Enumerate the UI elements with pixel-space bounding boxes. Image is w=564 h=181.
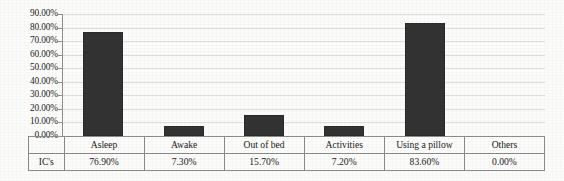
table-row-values: IC's 76.90%7.30%15.70%7.20%83.60%0.00%: [29, 154, 545, 171]
bar-asleep: [83, 32, 123, 136]
y-axis-tick-mark: [57, 41, 62, 42]
y-axis-tick-label: 80.00%: [2, 23, 58, 32]
gridline: [63, 68, 545, 69]
gridline: [63, 122, 545, 123]
table-value-cell: 0.00%: [464, 154, 544, 171]
gridline: [63, 82, 545, 83]
table-value-cell: 83.60%: [384, 154, 464, 171]
y-axis-tick-label: 70.00%: [2, 36, 58, 45]
gridline: [63, 109, 545, 110]
table-category-cell: Awake: [144, 137, 224, 154]
y-axis-tick-label: 90.00%: [2, 9, 58, 18]
gridline: [63, 28, 545, 29]
y-axis-tick-mark: [57, 136, 62, 137]
y-axis-tick-mark: [57, 14, 62, 15]
y-axis-tick-mark: [57, 122, 62, 123]
y-axis-tick-mark: [57, 82, 62, 83]
table-category-cell: Out of bed: [224, 137, 304, 154]
y-axis-tick-label: 50.00%: [2, 63, 58, 72]
y-axis-tick-mark: [57, 95, 62, 96]
y-axis-tick-mark: [57, 109, 62, 110]
table-row-label: IC's: [29, 154, 65, 171]
table-value-cell: 7.30%: [144, 154, 224, 171]
table-row-categories: AsleepAwakeOut of bedActivitiesUsing a p…: [29, 137, 545, 154]
bar-chart-figure: 0.00%10.00%20.00%30.00%40.00%50.00%60.00…: [0, 0, 564, 181]
y-axis-tick-label: 60.00%: [2, 50, 58, 59]
table-category-cell: Others: [464, 137, 544, 154]
y-axis-tick-mark: [57, 55, 62, 56]
table-value-cell: 15.70%: [224, 154, 304, 171]
bar-using-a-pillow: [405, 23, 445, 136]
gridline: [63, 55, 545, 56]
table-category-cell: Activities: [304, 137, 384, 154]
table-category-cell: Asleep: [64, 137, 144, 154]
table-corner-blank: [29, 137, 65, 154]
table-value-cell: 76.90%: [64, 154, 144, 171]
table-value-cell: 7.20%: [304, 154, 384, 171]
table-category-cell: Using a pillow: [384, 137, 464, 154]
gridline: [63, 14, 545, 15]
data-table: AsleepAwakeOut of bedActivitiesUsing a p…: [28, 136, 545, 171]
gridline: [63, 41, 545, 42]
y-axis-tick-mark: [57, 28, 62, 29]
bar-out-of-bed: [244, 115, 284, 136]
gridline: [63, 95, 545, 96]
bar-awake: [164, 126, 204, 136]
bar-activities: [324, 126, 364, 136]
y-axis-tick-label: 20.00%: [2, 104, 58, 113]
y-axis-tick-label: 30.00%: [2, 90, 58, 99]
y-axis-tick-mark: [57, 68, 62, 69]
y-axis-tick-label: 10.00%: [2, 117, 58, 126]
y-axis-tick-label: 40.00%: [2, 77, 58, 86]
plot-area: [63, 14, 545, 136]
